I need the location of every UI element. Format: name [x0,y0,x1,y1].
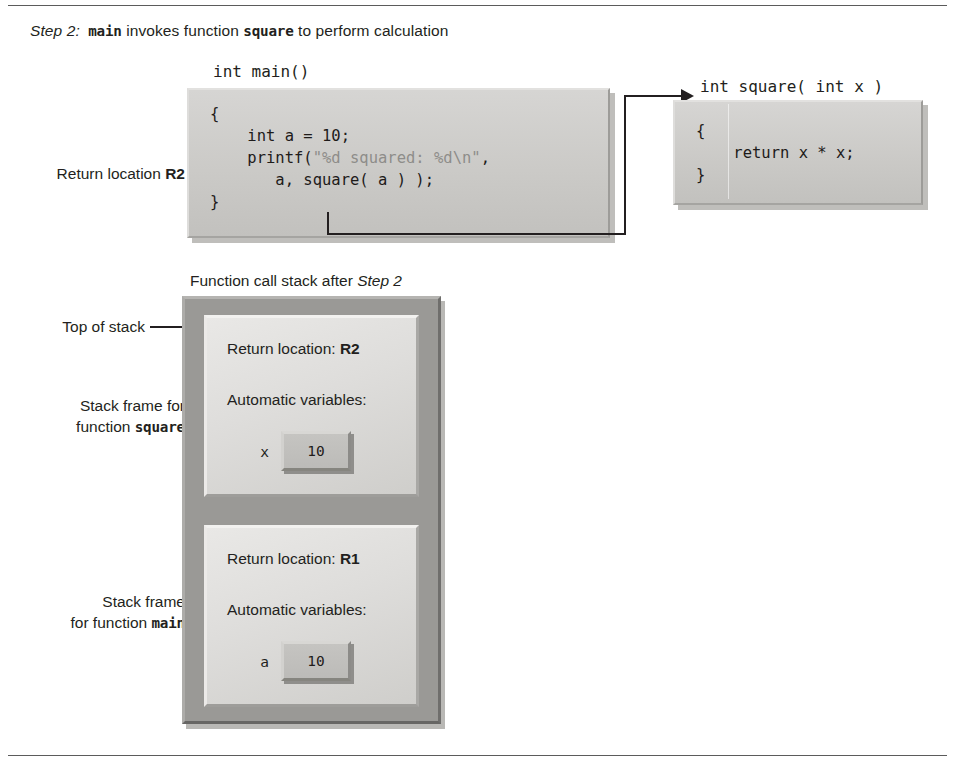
main-code-box: { int a = 10; printf("%d squared: %d\n",… [187,88,610,238]
stack-frame-square: Return location: R2 Automatic variables:… [204,315,419,497]
square-code-line-2: return x * x; [696,144,855,162]
square-code-line-3: } [696,166,705,184]
stack-frame-main-automatic-label: Automatic variables: [227,601,367,619]
main-code-line-3-string: "%d squared: %d\n" [313,149,481,167]
main-code-line-1: { [210,105,219,123]
caption-middle-text: invokes function [122,22,244,39]
bottom-divider-rule [8,755,947,756]
stack-frame-main: Return location: R1 Automatic variables:… [204,525,419,707]
stack-frame-main-return-location: Return location: R1 [227,550,360,568]
stack-frame-square-return-label: Return location: [227,340,340,357]
main-code-text: { int a = 10; printf("%d squared: %d\n",… [210,103,490,213]
square-function-signature: int square( int x ) [700,77,883,96]
stack-title-step: Step 2 [357,272,402,289]
stack-frame-square-variable-name: x [235,444,269,460]
stack-title-text: Function call stack after [190,272,357,289]
function-call-stack: Return location: R2 Automatic variables:… [182,296,441,724]
caption-main-token: main [80,23,122,39]
main-code-line-5: } [210,193,219,211]
call-connector-segment-2 [327,233,626,235]
stack-frame-main-variable-name: a [235,654,269,670]
stack-frame-square-return-location: Return location: R2 [227,340,360,358]
stack-frame-main-label: Stack framefor function main [0,591,185,634]
stack-frame-main-variable-value: 10 [281,641,351,681]
caption-square-token: square [243,23,293,39]
stack-frame-main-label-line2-text: for function [70,614,151,631]
stack-frame-main-label-line1: Stack frame [102,593,185,610]
stack-frame-square-automatic-label: Automatic variables: [227,391,367,409]
square-code-text: { return x * x; } [696,120,855,186]
main-code-line-4: a, square( a ) ); [210,171,434,189]
top-of-stack-label: Top of stack [0,318,145,336]
caption-step-label: Step 2: [30,22,80,39]
call-connector-segment-1 [327,212,329,235]
top-divider-rule [8,5,947,6]
stack-title: Function call stack after Step 2 [190,272,402,290]
stack-frame-square-variable-value: 10 [281,431,351,471]
main-code-line-3-comma: , [481,149,490,167]
caption-tail-text: to perform calculation [294,22,449,39]
stack-frame-square-label: Stack frame forfunction square [0,395,185,438]
main-code-line-2: int a = 10; [210,127,350,145]
stack-frame-square-return-value: R2 [340,340,360,357]
square-code-line-1: { [696,122,705,140]
call-connector-segment-3 [624,95,626,235]
stack-frame-square-label-line2-fn: square [135,419,185,435]
return-location-annotation-text: Return location [57,165,166,182]
stack-frame-main-return-label: Return location: [227,550,340,567]
figure-caption: Step 2: main invokes function square to … [30,22,448,40]
stack-frame-square-label-line1: Stack frame for [80,397,185,414]
main-code-line-3-call: printf( [210,149,313,167]
call-connector-segment-4 [624,95,684,97]
square-code-box: { return x * x; } [673,100,923,205]
stack-frame-square-label-line2-text: function [76,418,135,435]
figure-root: Step 2: main invokes function square to … [0,0,955,767]
return-location-annotation: Return location R2 [0,163,185,184]
return-location-annotation-value: R2 [165,165,185,182]
stack-frame-main-label-line2-fn: main [151,615,185,631]
stack-frame-main-return-value: R1 [340,550,360,567]
main-function-signature: int main() [213,62,309,81]
